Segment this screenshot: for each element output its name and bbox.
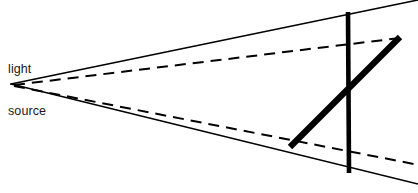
light-source-diagram: light source	[0, 0, 418, 193]
lower-solid-ray	[11, 84, 418, 184]
upper-solid-ray	[11, 0, 418, 84]
upper-dashed-ray	[14, 38, 400, 85]
light-source-label: light source	[8, 34, 46, 146]
light-source-label-line1: light	[8, 62, 46, 76]
diagonal-bar	[290, 37, 400, 147]
lower-dashed-ray	[14, 86, 414, 164]
light-source-label-line2: source	[8, 104, 46, 118]
diagram-canvas	[0, 0, 418, 193]
